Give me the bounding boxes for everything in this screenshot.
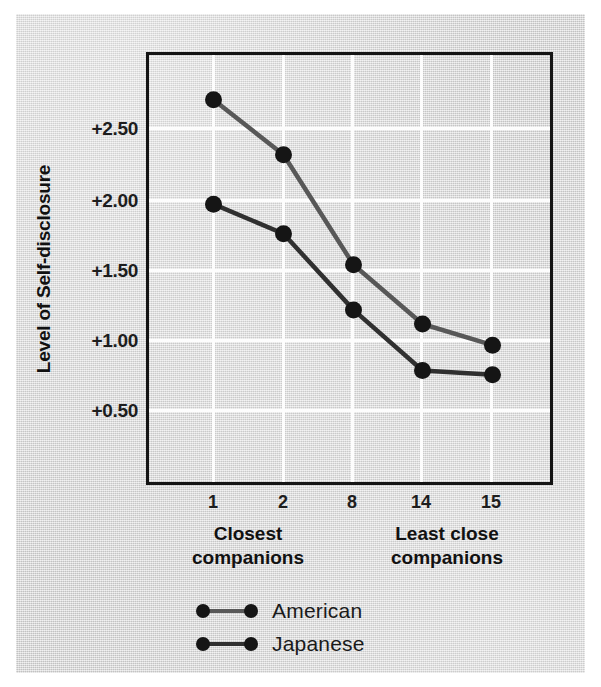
y-tick-label: +2.50 [28,118,138,140]
chart-figure: Level of Self-disclosure +2.50 +2.00 +1.… [0,0,601,687]
y-tick-label: +1.00 [28,330,138,352]
y-tick-label: +1.50 [28,260,138,282]
caption-line-1: Least close [352,522,542,546]
y-tick-label: +2.00 [28,190,138,212]
legend-item-american: American [196,594,365,627]
caption-line-2: companions [352,546,542,570]
x-tick-label: 15 [461,492,521,513]
legend-label: American [272,599,362,623]
x-axis-caption-closest: Closest companions [153,522,343,570]
y-tick-label: +0.50 [28,400,138,422]
plot-frame-border [146,52,553,485]
x-tick-label: 2 [253,492,313,513]
chart-legend: American Japanese [196,594,365,660]
x-tick-label: 14 [391,492,451,513]
legend-item-japanese: Japanese [196,627,365,660]
caption-line-2: companions [153,546,343,570]
legend-label: Japanese [272,632,365,656]
legend-line-marker-icon [196,635,258,653]
x-tick-label: 8 [322,492,382,513]
y-axis-tick-labels: +2.50 +2.00 +1.50 +1.00 +0.50 [26,0,138,687]
x-axis-caption-least-close: Least close companions [352,522,542,570]
caption-line-1: Closest [153,522,343,546]
x-tick-label: 1 [183,492,243,513]
legend-line-marker-icon [196,602,258,620]
